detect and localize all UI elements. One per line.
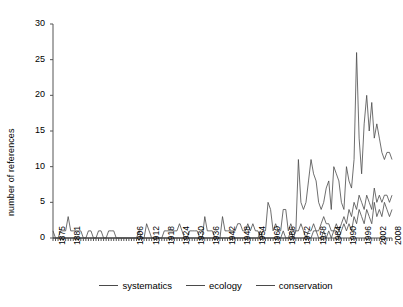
y-tick-label: 30 [23,18,45,28]
series-line-systematics [53,53,392,238]
x-tick-label: 1924 [181,226,191,245]
legend-line-icon [99,285,118,286]
x-tick-label: 2008 [393,226,403,245]
x-tick-label: 1990 [348,226,358,245]
x-tick-label: 1972 [302,226,312,245]
x-tick-label: 1930 [196,226,206,245]
x-tick-label: 1966 [287,226,297,245]
x-tick-label: 1918 [166,226,176,245]
y-tick-label: 10 [23,161,45,171]
legend-line-icon [256,285,275,286]
x-tick-label: 1954 [257,226,267,245]
legend-label: systematics [122,280,172,291]
legend-line-icon [186,285,205,286]
x-tick-label: 1875 [57,226,67,245]
x-tick-label: 1881 [72,226,82,245]
y-tick-label: 5 [23,196,45,206]
legend-item-systematics: systematics [99,280,172,291]
x-tick-label: 1984 [333,226,343,245]
x-tick-label: 1960 [272,226,282,245]
x-tick-label: 1912 [151,226,161,245]
legend-label: conservation [279,280,333,291]
legend-label: ecology [209,280,242,291]
y-tick-label: 20 [23,89,45,99]
y-tick-label: 0 [23,232,45,242]
y-tick-label: 15 [23,125,45,135]
chart-legend: systematics ecology conservation [53,276,393,294]
x-tick-label: 1942 [227,226,237,245]
x-tick-label: 1936 [211,226,221,245]
x-tick-label: 1996 [363,226,373,245]
x-tick-label: 2002 [378,226,388,245]
y-tick-label: 25 [23,54,45,64]
chart-canvas [0,0,403,307]
chart-figure: number of references 051015202530 187518… [0,0,403,307]
data-series-group [53,53,392,238]
x-tick-label: 1948 [242,226,252,245]
x-tick-label: 1978 [318,226,328,245]
legend-item-ecology: ecology [186,280,242,291]
x-tick-label: 1906 [135,226,145,245]
legend-item-conservation: conservation [256,280,333,291]
